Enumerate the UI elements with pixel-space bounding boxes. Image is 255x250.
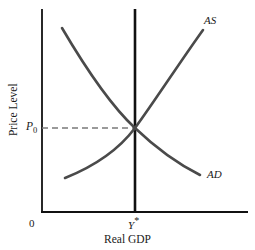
ad-curve	[62, 28, 200, 175]
y-axis-label: Price Level	[8, 75, 20, 145]
equilibrium-price-label: P0	[26, 121, 37, 135]
equilibrium-output-label: Y*	[128, 216, 139, 231]
ad-as-diagram: AS AD 0 Y* Real GDP Price Level P0	[0, 0, 255, 250]
ad-curve-label: AD	[207, 169, 222, 180]
x-axis-label: Real GDP	[0, 234, 255, 246]
equilibrium-price-symbol: P	[26, 120, 33, 132]
origin-label: 0	[29, 218, 35, 229]
diagram-canvas	[0, 0, 255, 250]
as-curve-label: AS	[204, 15, 216, 26]
equilibrium-output-star: *	[134, 215, 139, 226]
equilibrium-price-subscript: 0	[33, 125, 37, 135]
